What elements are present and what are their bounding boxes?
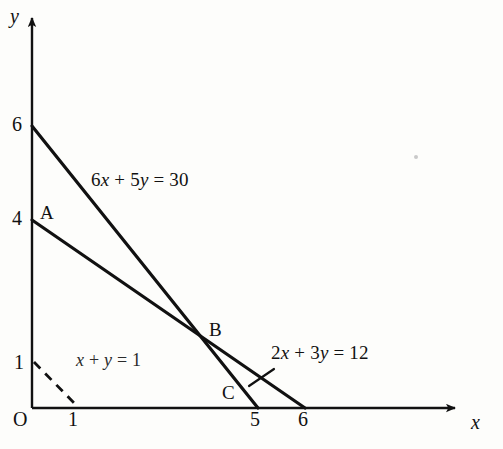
x-tick-5: 5 <box>250 409 260 429</box>
eq2-coef-b: 3 <box>310 342 320 363</box>
eq3-rhs: 1 <box>132 350 141 370</box>
y-tick-1: 1 <box>14 352 24 372</box>
y-tick-6: 6 <box>12 114 22 134</box>
eq2-operator: + <box>294 342 305 363</box>
equation-label-6x-5y-30: 6x + 5y = 30 <box>91 170 189 189</box>
x-axis-label: x <box>471 412 480 432</box>
point-label-a: A <box>40 203 54 222</box>
math-diagram: y x O 6 4 1 1 5 6 A B C 6x + 5y = 30 2x … <box>0 0 503 449</box>
eq2-var-y: y <box>320 342 329 363</box>
x-tick-1: 1 <box>68 409 78 429</box>
eq1-equals: = <box>153 169 164 190</box>
equation-label-2x-3y-12: 2x + 3y = 12 <box>271 343 369 362</box>
eq2-var-x: x <box>281 342 290 363</box>
point-label-c: C <box>222 383 235 402</box>
eq2-coef-a: 2 <box>271 342 281 363</box>
eq3-var-y: y <box>104 350 112 370</box>
eq1-coef-b: 5 <box>130 169 140 190</box>
origin-label: O <box>13 409 27 429</box>
point-label-b: B <box>209 320 222 339</box>
x-tick-6: 6 <box>298 409 308 429</box>
eq2-equals: = <box>333 342 344 363</box>
eq1-var-y: y <box>140 169 149 190</box>
y-axis-label: y <box>10 6 19 26</box>
eq1-operator: + <box>114 169 125 190</box>
eq3-var-x: x <box>76 350 84 370</box>
eq1-coef-a: 6 <box>91 169 101 190</box>
eq3-equals: = <box>117 350 127 370</box>
eq1-rhs: 30 <box>169 169 188 190</box>
line-x-y-1 <box>34 362 78 407</box>
scan-speck <box>414 155 418 159</box>
equation-label-x-y-1: x + y = 1 <box>76 351 141 369</box>
eq3-operator: + <box>89 350 99 370</box>
line-2x-3y-12 <box>32 220 305 408</box>
diagram-canvas <box>0 0 503 449</box>
eq2-rhs: 12 <box>349 342 368 363</box>
eq1-var-x: x <box>101 169 110 190</box>
y-tick-4: 4 <box>12 208 22 228</box>
